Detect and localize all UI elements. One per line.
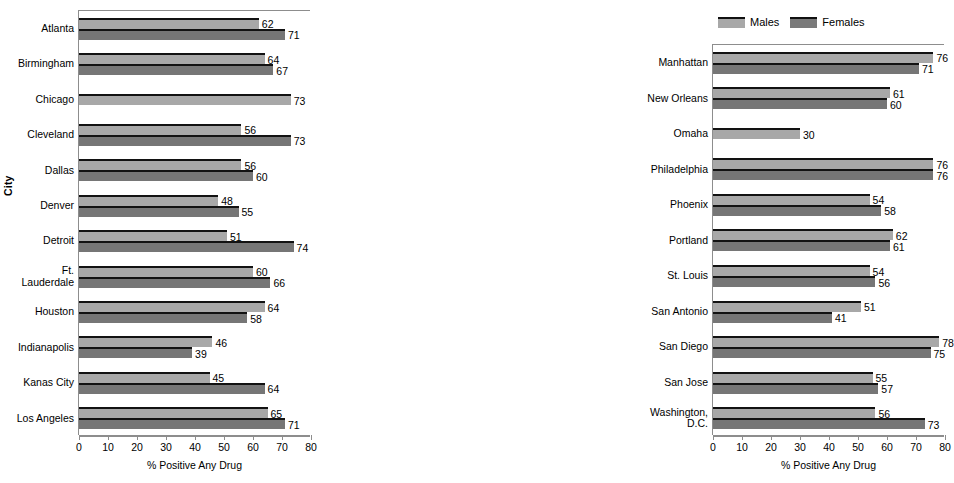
- bar-rect: 73: [713, 418, 925, 429]
- legend-item-males: Males: [718, 17, 779, 28]
- bar-males: 56: [79, 159, 241, 170]
- x-axis-tick-label: 10: [102, 442, 114, 453]
- bar-rect: 64: [79, 301, 265, 312]
- bar-value-label: 71: [288, 30, 300, 41]
- bar-value-label: 39: [195, 349, 207, 360]
- bar-females: 66: [79, 277, 270, 288]
- bar-females: 71: [79, 418, 285, 429]
- bar-group-row: Phoenix5458: [713, 187, 944, 223]
- x-axis-tick-label: 10: [736, 442, 748, 453]
- bar-value-label: 71: [922, 64, 934, 75]
- bar-group-row: San Antonio5141: [713, 294, 944, 330]
- bar-females: 58: [713, 205, 881, 216]
- bar-females: 64: [79, 383, 265, 394]
- bar-males: 46: [79, 336, 212, 347]
- bar-rect: 65: [79, 407, 268, 418]
- bar-males: 62: [79, 18, 259, 29]
- x-axis-tick: [282, 435, 283, 440]
- category-label: Phoenix: [588, 199, 708, 211]
- x-axis-tick-label: 40: [189, 442, 201, 453]
- x-axis-tick-label: 70: [276, 442, 288, 453]
- bar-rect: 51: [79, 230, 227, 241]
- bar-value-label: 58: [884, 206, 896, 217]
- x-axis-tick-label: 0: [76, 442, 82, 453]
- x-axis-tick: [858, 435, 859, 440]
- bar-group-row: Portland6261: [713, 223, 944, 259]
- bar-rect: 54: [713, 265, 870, 276]
- bar-rect: 76: [713, 52, 933, 63]
- bar-value-label: 67: [276, 65, 288, 76]
- bar-males: 61: [713, 87, 890, 98]
- bar-females: 75: [713, 347, 931, 358]
- x-axis-tick-label: 50: [218, 442, 230, 453]
- bar-value-label: 76: [936, 171, 948, 182]
- bar-value-label: 71: [288, 420, 300, 431]
- bar-males: 64: [79, 301, 265, 312]
- x-axis-tick: [166, 435, 167, 440]
- category-label: Cleveland: [0, 129, 74, 141]
- legend-label-males: Males: [750, 17, 779, 28]
- x-axis-tick: [311, 435, 312, 440]
- bar-rect: 73: [79, 135, 291, 146]
- bar-females: 73: [79, 135, 291, 146]
- bar-rect: 74: [79, 241, 294, 252]
- bar-rect: 71: [713, 63, 919, 74]
- category-label: San Antonio: [588, 306, 708, 318]
- legend: Males Females: [718, 17, 865, 28]
- x-axis-tick-label: 60: [881, 442, 893, 453]
- bar-males: 65: [79, 407, 268, 418]
- bar-females: 56: [713, 276, 875, 287]
- plot-area-right: Manhattan7671New Orleans6160Omaha30Phila…: [712, 44, 944, 435]
- bar-value-label: 78: [942, 337, 954, 348]
- bar-value-label: 66: [273, 278, 285, 289]
- category-label: Omaha: [588, 128, 708, 140]
- bar-value-label: 73: [928, 419, 940, 430]
- bar-rect: 62: [79, 18, 259, 29]
- bar-rect: 45: [79, 372, 210, 383]
- bar-value-label: 62: [896, 231, 908, 242]
- bar-group-row: Dallas5660: [79, 153, 310, 188]
- x-axis-tick-label: 50: [852, 442, 864, 453]
- x-axis-tick: [224, 435, 225, 440]
- x-axis-tick: [713, 435, 714, 440]
- bar-males: 78: [713, 336, 939, 347]
- bar-rect: 58: [79, 312, 247, 323]
- bar-rect: 60: [79, 170, 253, 181]
- bar-rect: 71: [79, 418, 285, 429]
- x-axis-tick-label: 20: [131, 442, 143, 453]
- category-label: Portland: [588, 235, 708, 247]
- x-axis-tick: [253, 435, 254, 440]
- category-label: Manhattan: [588, 57, 708, 69]
- bar-rect: 78: [713, 336, 939, 347]
- bar-group-row: Houston6458: [79, 294, 310, 329]
- category-label: Kanas City: [0, 377, 74, 389]
- x-axis-tick: [945, 435, 946, 440]
- bar-rect: 61: [713, 87, 890, 98]
- bar-group-row: Manhattan7671: [713, 45, 944, 81]
- bar-rect: 39: [79, 347, 192, 358]
- bar-rect: 58: [713, 205, 881, 216]
- bar-group-row: San Jose5557: [713, 365, 944, 401]
- bar-males: 48: [79, 195, 218, 206]
- bar-group-row: Kanas City4564: [79, 365, 310, 400]
- x-axis-title: % Positive Any Drug: [713, 459, 944, 471]
- bar-females: 41: [713, 312, 832, 323]
- bar-rect: 48: [79, 195, 218, 206]
- category-label: Chicago: [0, 94, 74, 106]
- bar-rect: 67: [79, 64, 273, 75]
- bar-group-row: Atlanta6271: [79, 11, 310, 46]
- bar-males: 30: [713, 128, 800, 139]
- bar-rect: 55: [713, 372, 873, 383]
- bar-males: 62: [713, 229, 893, 240]
- bar-females: 61: [713, 240, 890, 251]
- bar-rect: 64: [79, 53, 265, 64]
- bar-value-label: 58: [250, 313, 262, 324]
- bar-value-label: 51: [864, 302, 876, 313]
- x-axis-tick: [800, 435, 801, 440]
- category-label: Washington, D.C.: [588, 407, 708, 430]
- x-axis-tick-label: 20: [765, 442, 777, 453]
- bar-males: 73: [79, 94, 291, 105]
- bar-rect: 71: [79, 29, 285, 40]
- bar-rect: 60: [79, 266, 253, 277]
